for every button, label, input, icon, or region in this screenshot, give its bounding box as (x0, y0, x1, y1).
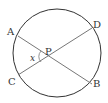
label-p: P (45, 46, 52, 57)
label-a: A (6, 26, 15, 37)
label-c: C (8, 76, 16, 87)
label-d: D (93, 19, 101, 30)
label-x: x (30, 53, 35, 63)
circle (13, 9, 101, 97)
chord-cd (18, 28, 92, 75)
label-b: B (93, 78, 100, 89)
circle-diagram: A B C D P x (0, 0, 108, 103)
